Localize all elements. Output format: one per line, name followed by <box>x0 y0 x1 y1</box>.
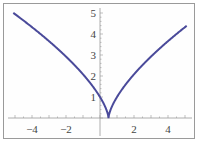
y-tick-label: 3 <box>91 49 97 61</box>
x-tick-label: −4 <box>26 123 38 135</box>
tick-labels: −4−22412345 <box>26 7 171 135</box>
line-chart: −4−22412345 <box>0 0 198 142</box>
axes <box>8 8 192 136</box>
y-tick-label: 1 <box>91 91 97 103</box>
x-tick-label: 4 <box>165 123 171 135</box>
y-tick-label: 5 <box>91 7 97 19</box>
x-tick-label: −2 <box>60 123 72 135</box>
y-tick-label: 2 <box>91 70 97 82</box>
x-tick-label: 2 <box>131 123 137 135</box>
y-tick-label: 4 <box>91 28 97 40</box>
